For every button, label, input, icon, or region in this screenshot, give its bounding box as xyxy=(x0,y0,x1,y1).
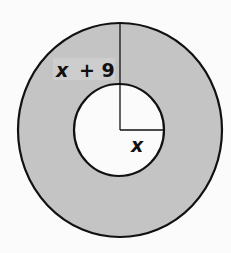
inner-radius-label: x xyxy=(130,134,144,156)
outer-radius-var: x xyxy=(55,59,69,81)
annulus-diagram: x + 9 x xyxy=(0,0,231,253)
outer-radius-op: + 9 xyxy=(79,59,115,81)
outer-radius-label: x + 9 xyxy=(55,59,115,81)
